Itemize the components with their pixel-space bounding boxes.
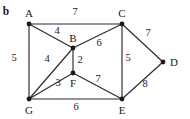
edge-a-b xyxy=(29,24,73,48)
edge-weight-a-b: 4 xyxy=(54,26,59,37)
node-a xyxy=(27,22,32,27)
node-label-f: F xyxy=(70,78,76,89)
edge-weight-b-f: 2 xyxy=(77,55,82,66)
edge-weight-a-c: 7 xyxy=(72,7,77,18)
node-e xyxy=(120,97,125,102)
node-label-c: C xyxy=(118,8,125,19)
node-label-e: E xyxy=(119,105,126,116)
node-label-b: B xyxy=(69,33,76,44)
edge-weight-b-g: 4 xyxy=(44,54,49,65)
node-g xyxy=(27,97,32,102)
node-label-d: D xyxy=(170,57,178,68)
graph-figure: b 745642367578 ACBDFGE xyxy=(0,0,190,119)
node-b xyxy=(71,46,76,51)
edge-weight-c-d: 7 xyxy=(145,28,150,39)
edge-weight-b-c: 6 xyxy=(96,38,101,49)
edge-weight-g-e: 6 xyxy=(73,102,78,113)
edge-weight-c-e: 5 xyxy=(125,53,130,64)
edge-weight-a-g: 5 xyxy=(11,53,16,64)
edge-g-f xyxy=(29,73,73,99)
node-f xyxy=(71,71,76,76)
node-label-g: G xyxy=(25,105,33,116)
node-c xyxy=(120,22,125,27)
node-label-a: A xyxy=(25,8,33,19)
panel-label: b xyxy=(3,6,9,18)
edge-b-g xyxy=(29,48,73,99)
edge-weight-e-d: 8 xyxy=(142,79,147,90)
edge-weight-f-e: 7 xyxy=(95,74,100,85)
node-d xyxy=(161,60,166,65)
edge-weight-g-f: 3 xyxy=(55,78,60,89)
